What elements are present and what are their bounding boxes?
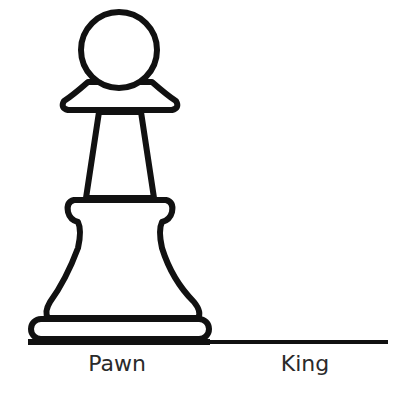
pawn-base <box>31 319 209 339</box>
pawn-head <box>81 12 157 88</box>
king-label: King <box>281 351 329 376</box>
pawn-body <box>46 200 199 318</box>
pawn-neck <box>86 112 154 198</box>
pawn-diagram <box>0 0 411 396</box>
pawn-label: Pawn <box>88 351 146 376</box>
